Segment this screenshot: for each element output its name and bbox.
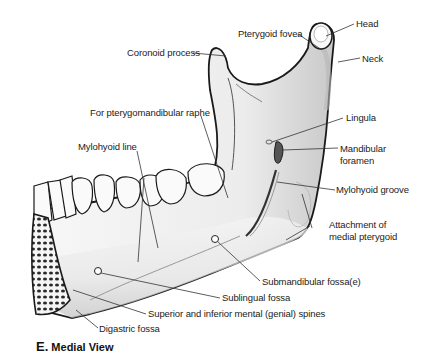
- label-digastric-fossa: Digastric fossa: [99, 323, 160, 334]
- label-mylohyoid-groove: Mylohyoid groove: [336, 184, 409, 195]
- label-head: Head: [356, 18, 378, 29]
- label-pterygomandibular-raphe: For pterygomandibular raphe: [90, 107, 210, 118]
- label-medial-pterygoid-line2: medial pterygoid: [329, 231, 397, 242]
- label-pterygoid-fovea: Pterygoid fovea: [238, 28, 303, 39]
- caption-letter: E.: [36, 339, 48, 354]
- caption-text: Medial View: [51, 341, 113, 353]
- label-mental-spines: Superior and inferior mental (genial) sp…: [148, 308, 325, 319]
- label-neck: Neck: [362, 53, 383, 64]
- label-mandibular-foramen-line2: foramen: [340, 155, 374, 166]
- label-lingula: Lingula: [346, 112, 376, 123]
- label-submandibular-fossa: Submandibular fossa(e): [262, 276, 361, 287]
- label-coronoid-process: Coronoid process: [127, 47, 200, 58]
- label-mandibular-foramen-line1: Mandibular: [340, 143, 386, 154]
- label-mylohyoid-line: Mylohyoid line: [78, 141, 137, 152]
- label-sublingual-fossa: Sublingual fossa: [222, 292, 290, 303]
- label-medial-pterygoid-line1: Attachment of: [329, 219, 386, 230]
- sublingual-fossa-marker: [95, 268, 102, 275]
- mandible-bone: [36, 23, 334, 318]
- mandible-medial-view-figure: Head Pterygoid fovea Coronoid process Ne…: [0, 0, 425, 358]
- submandibular-fossa-marker: [212, 236, 219, 243]
- figure-caption: E. Medial View: [36, 339, 114, 354]
